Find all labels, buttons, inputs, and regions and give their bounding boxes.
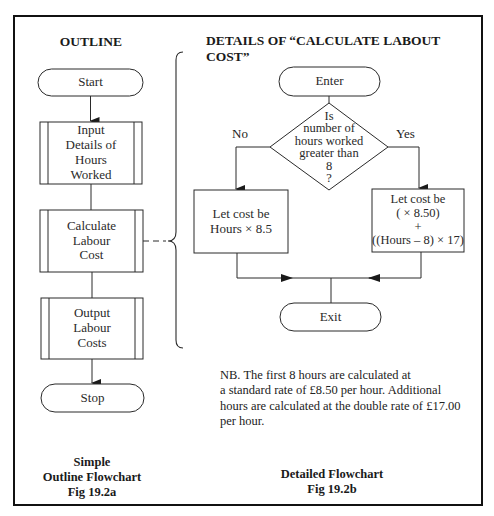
enter-label: Enter (279, 67, 380, 96)
exit-label: Exit (280, 303, 381, 331)
arrow-no-branch (236, 147, 270, 189)
start-label: Start (38, 69, 143, 96)
detail-caption: Detailed Flowchart Fig 19.2b (270, 467, 394, 497)
outline-heading: OUTLINE (45, 34, 137, 50)
yes-result-label: Let cost be ( × 8.50) + ((Hours – 8) × 1… (372, 189, 464, 252)
nb-note: NB. The first 8 hours are calculated at … (220, 368, 480, 429)
decision-label: Is number of hours worked greater than 8… (279, 105, 379, 189)
yes-label: Yes (396, 127, 426, 142)
calculate-label: Calculate Labour Cost (48, 210, 135, 272)
outline-caption: Simple Outline Flowchart Fig 19.2a (30, 455, 154, 500)
arrow-yes-branch (388, 147, 419, 188)
input-label: Input Details of Hours Worked (48, 122, 134, 184)
no-result-label: Let cost be Hours × 8.5 (194, 190, 288, 253)
curly-brace (168, 52, 183, 348)
stop-label: Stop (41, 384, 144, 412)
arrow-no-merge (237, 253, 292, 278)
output-label: Output Labour Costs (49, 298, 135, 359)
detail-heading: DETAILS OF “CALCULATE LABOUT COST” (206, 33, 476, 64)
arrow-yes-merge (369, 252, 421, 278)
no-label: No (232, 127, 262, 142)
flowchart-figure: OUTLINE DETAILS OF “CALCULATE LABOUT COS… (0, 0, 494, 516)
